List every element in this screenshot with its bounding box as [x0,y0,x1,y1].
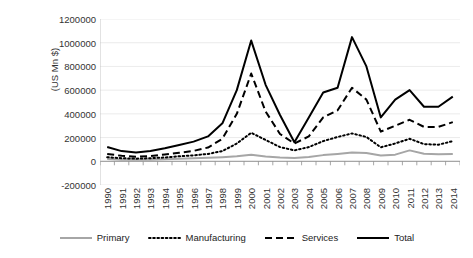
x-axis-tick-label: 2004 [304,188,315,209]
y-axis-tick-label: 200000 [10,132,96,143]
chart-legend: PrimaryManufacturingServicesTotal [0,232,473,243]
legend-label: Services [302,232,338,243]
legend-label: Total [394,232,414,243]
x-axis-tick-label: 1996 [189,188,200,209]
y-axis-tick-label: 0 [10,156,96,167]
series-canvas [100,19,460,185]
line-solid-black-swatch [356,233,390,243]
line-dashed-black-swatch [264,233,298,243]
x-axis-tick-label: 2000 [246,188,257,209]
x-axis-tick-label: 2006 [333,188,344,209]
plot-area [100,19,460,185]
y-axis-tick-label: 1200000 [10,14,96,25]
x-axis-tick-label: 1999 [232,188,243,209]
legend-label: Manufacturing [186,232,246,243]
x-axis-tick-label: 1997 [203,188,214,209]
y-axis-tick-label: 1000000 [10,37,96,48]
line-dotted-black-swatch [148,233,182,243]
x-axis-tick-label: 2005 [318,188,329,209]
legend-item-total[interactable]: Total [356,232,414,243]
x-axis-tick-label: 2007 [347,188,358,209]
x-axis-tick-label: 2001 [261,188,272,209]
x-axis-tick-label: 2013 [433,188,444,209]
x-axis-tick-label: 1991 [117,188,128,209]
legend-label: Primary [97,232,130,243]
x-axis-tick-label: 2009 [376,188,387,209]
x-axis-tick-label: 2014 [448,188,459,209]
legend-item-services[interactable]: Services [264,232,338,243]
y-axis-tick-label: 600000 [10,85,96,96]
legend-item-manufacturing[interactable]: Manufacturing [148,232,246,243]
x-axis-tick-label: 1992 [131,188,142,209]
x-axis-tick-label: 2011 [405,188,416,208]
x-axis-tick-labels: 1990199119921993199419951996199719981999… [0,188,473,222]
x-axis-tick-label: 2012 [419,188,430,209]
x-axis-tick-label: 1998 [217,188,228,209]
y-axis-tick-label: 800000 [10,61,96,72]
x-axis-tick-label: 2002 [275,188,286,209]
x-axis-tick-label: 1994 [160,188,171,209]
x-axis-tick-label: 2003 [289,188,300,209]
x-axis-tick-label: 2008 [361,188,372,209]
x-axis-tick-label: 2010 [390,188,401,209]
line-solid-gray-swatch [59,233,93,243]
line-chart: (US Mn $) 120000010000008000006000004000… [0,0,473,258]
series-line-manufacturing [107,133,453,159]
legend-item-primary[interactable]: Primary [59,232,130,243]
y-axis-tick-label: 400000 [10,108,96,119]
x-axis-tick-label: 1995 [174,188,185,209]
x-axis-tick-label: 1993 [145,188,156,209]
x-axis-tick-label: 1990 [102,188,113,209]
